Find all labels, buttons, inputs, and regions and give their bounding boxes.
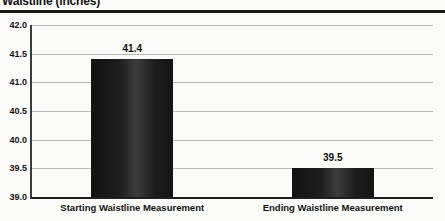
y-tick-label: 41.5 [3,49,27,59]
y-tick-label: 39.5 [3,163,27,173]
title-rule [0,10,445,13]
category-label: Starting Waistline Measurement [32,202,232,213]
y-tick-label: 41.0 [3,77,27,87]
y-tick-label: 40.0 [3,135,27,145]
bar-value-label: 39.5 [292,152,374,163]
y-tick-label: 42.0 [3,20,27,30]
bar [91,59,173,197]
chart-figure: Waistline (inches) 41.439.5 42.041.541.0… [0,0,445,221]
bar [292,168,374,197]
gridline [32,25,433,26]
y-tick-label: 40.5 [3,106,27,116]
bar-value-label: 41.4 [91,43,173,54]
y-tick-label: 39.0 [3,192,27,202]
category-label: Ending Waistline Measurement [233,202,433,213]
chart-title: Waistline (inches) [2,0,100,8]
plot-area: 41.439.5 [30,25,433,199]
